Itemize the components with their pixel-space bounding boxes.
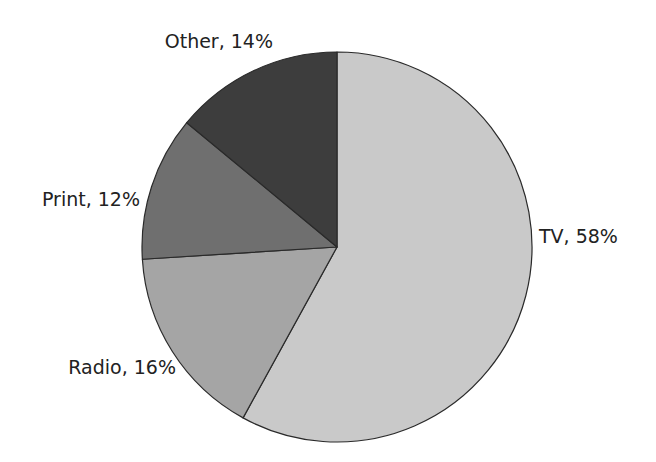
label-tv: TV, 58% [538,225,618,247]
pie-chart: TV, 58% Radio, 16% Print, 12% Other, 14% [0,0,656,462]
pie-slices [142,52,532,442]
label-other: Other, 14% [165,30,273,52]
label-radio: Radio, 16% [68,356,176,378]
pie-chart-canvas: TV, 58% Radio, 16% Print, 12% Other, 14% [0,0,656,462]
label-print: Print, 12% [42,188,140,210]
